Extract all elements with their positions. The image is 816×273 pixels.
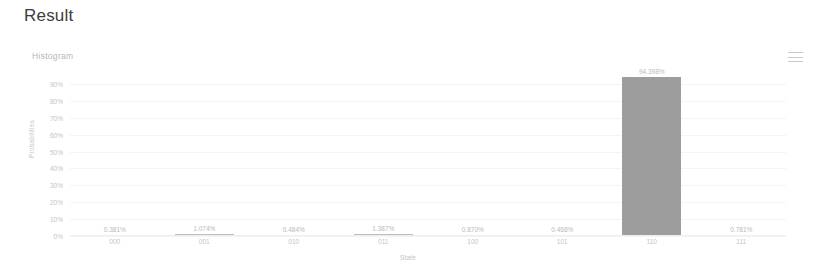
bar-value-label: 0.381% (104, 226, 126, 233)
y-axis-title: Probabilities (28, 120, 35, 158)
bar-slot: 0.381% (70, 84, 160, 236)
y-axis-tick-label: 20% (50, 199, 63, 206)
bar-value-label: 0.781% (730, 226, 752, 233)
x-axis-title: State (0, 254, 816, 261)
x-axis-tick-label: 000 (70, 238, 160, 245)
y-axis-tick-label: 80% (50, 97, 63, 104)
x-axis-line (70, 235, 786, 236)
y-axis-tick-label: 0% (54, 233, 63, 240)
y-axis-tick-label: 50% (50, 148, 63, 155)
bar-value-label: 94.398% (639, 68, 665, 75)
y-axis-tick-label: 30% (50, 182, 63, 189)
bar-slot: 1.074% (160, 84, 250, 236)
x-axis-tick-label: 001 (160, 238, 250, 245)
menu-line-1 (788, 52, 803, 53)
bar-value-label: 0.468% (551, 226, 573, 233)
bar-slot: 0.781% (697, 84, 787, 236)
bar-series: 0.381%1.074%0.484%1.387%0.870%0.468%94.3… (70, 84, 786, 236)
y-axis-tick-label: 70% (50, 114, 63, 121)
bar-value-label: 0.870% (462, 226, 484, 233)
x-axis-tick-label: 110 (607, 238, 697, 245)
x-axis-tick-label: 011 (339, 238, 429, 245)
bar-value-label: 1.387% (372, 225, 394, 232)
bar-slot: 0.870% (428, 84, 518, 236)
x-axis-tick-label: 111 (697, 238, 787, 245)
bar-value-label: 0.484% (283, 226, 305, 233)
result-page: Result Histogram Probabilities 90%80%70%… (0, 0, 816, 273)
x-axis-tick-label: 101 (518, 238, 608, 245)
bar-slot: 0.468% (518, 84, 608, 236)
y-axis-tick-label: 60% (50, 131, 63, 138)
y-axis-tick-label: 90% (50, 81, 63, 88)
gridline (70, 236, 786, 237)
bar-110[interactable]: 94.398% (622, 77, 681, 236)
bar-slot: 0.484% (249, 84, 339, 236)
bar-slot: 94.398% (607, 84, 697, 236)
menu-line-2 (788, 57, 803, 58)
y-axis-tick-label: 40% (50, 165, 63, 172)
menu-line-3 (788, 61, 803, 62)
chart-title: Histogram (32, 51, 73, 61)
histogram-chart-card: Histogram Probabilities 90%80%70%60%50%4… (0, 40, 816, 273)
x-axis-tick-label: 010 (249, 238, 339, 245)
x-axis-ticks: 000001010011100101110111 (70, 238, 786, 245)
bar-slot: 1.387% (339, 84, 429, 236)
x-axis-tick-label: 100 (428, 238, 518, 245)
plot-area: 90%80%70%60%50%40%30%20%10%0% 0.381%1.07… (70, 84, 786, 236)
bar-value-label: 1.074% (193, 225, 215, 232)
hamburger-menu-icon[interactable] (787, 50, 804, 64)
page-title: Result (24, 6, 73, 26)
y-axis-tick-label: 10% (50, 216, 63, 223)
